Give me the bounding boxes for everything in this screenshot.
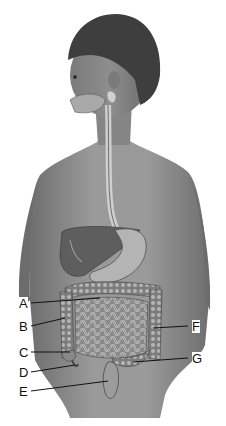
descending-colon — [148, 290, 162, 360]
label-f: F — [192, 320, 200, 333]
label-b: B — [19, 320, 28, 333]
label-a: A — [19, 297, 28, 310]
label-d: D — [19, 366, 28, 379]
label-c: C — [19, 346, 28, 359]
ear — [108, 71, 120, 89]
small-intestine — [75, 297, 148, 358]
label-e: E — [19, 385, 28, 398]
rectum — [103, 362, 118, 399]
ascending-colon — [60, 292, 74, 358]
eye — [73, 75, 77, 79]
label-g: G — [192, 352, 202, 365]
